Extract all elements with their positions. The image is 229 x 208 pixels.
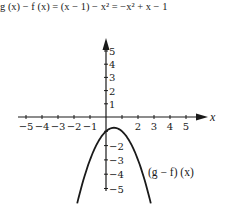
x-tick-label: −5 [19,121,34,132]
x-tick-label: 3 [151,121,157,132]
graph: −5−4−3−2−1234554321−2−3−4−5 x (g − f) (x… [0,0,229,208]
y-tick-label: 3 [109,72,115,83]
y-tick-label: −5 [109,184,124,195]
y-tick-label: −4 [109,169,124,180]
y-tick-label: 2 [109,86,115,97]
y-tick-label: −3 [109,155,124,166]
curve-label: (g − f) (x) [148,166,194,179]
y-tick-label: 4 [109,59,115,70]
y-tick-label: −2 [109,141,124,152]
x-tick-label: −1 [83,121,98,132]
x-axis-arrow-icon [196,114,208,121]
x-tick-label: −4 [35,121,50,132]
x-axis-label: x [209,110,216,124]
x-tick-label: 2 [135,121,141,132]
x-tick-label: 5 [183,121,189,132]
x-tick-label: −3 [51,121,66,132]
y-tick-label: 1 [109,99,115,110]
y-tick-label: 5 [109,46,115,57]
x-tick-label: 4 [167,121,173,132]
x-tick-label: −2 [67,121,82,132]
